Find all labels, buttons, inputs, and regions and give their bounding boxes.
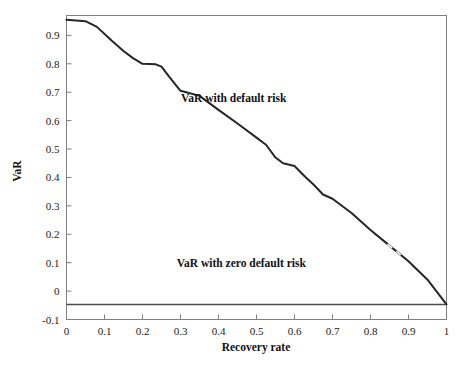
x-tick-label: 0.8 bbox=[364, 325, 378, 337]
y-tick-label: -0.1 bbox=[42, 314, 59, 326]
y-tick-label: 0.9 bbox=[46, 29, 60, 41]
y-tick-label: 0.6 bbox=[46, 115, 60, 127]
x-tick-label: 0.6 bbox=[288, 325, 302, 337]
y-tick-label: 0 bbox=[54, 285, 60, 297]
annotation-var-with-default-risk: VaR with default risk bbox=[181, 92, 287, 104]
x-axis-title: Recovery rate bbox=[222, 341, 291, 354]
x-tick-label: 0.1 bbox=[98, 325, 112, 337]
x-tick-label: 0 bbox=[64, 325, 70, 337]
x-tick-label: 1 bbox=[444, 325, 450, 337]
x-tick-label: 0.5 bbox=[250, 325, 264, 337]
y-tick-label: 0.3 bbox=[46, 200, 60, 212]
figure-background bbox=[0, 0, 471, 367]
annotation-var-with-zero-default-risk: VaR with zero default risk bbox=[177, 257, 307, 269]
y-tick-label: 0.1 bbox=[46, 257, 60, 269]
y-axis-title: VaR bbox=[11, 160, 23, 182]
var-recovery-rate-plot: 00.10.20.30.40.50.60.70.80.91 -0.100.10.… bbox=[0, 0, 471, 367]
x-tick-label: 0.9 bbox=[402, 325, 416, 337]
y-tick-label: 0.4 bbox=[46, 171, 60, 183]
y-tick-label: 0.7 bbox=[46, 86, 60, 98]
x-tick-label: 0.4 bbox=[212, 325, 226, 337]
x-tick-label: 0.7 bbox=[326, 325, 340, 337]
x-tick-label: 0.2 bbox=[136, 325, 150, 337]
y-tick-label: 0.5 bbox=[46, 143, 60, 155]
chart-figure: 00.10.20.30.40.50.60.70.80.91 -0.100.10.… bbox=[0, 0, 471, 367]
x-tick-label: 0.3 bbox=[174, 325, 188, 337]
y-tick-label: 0.2 bbox=[46, 228, 60, 240]
y-tick-label: 0.8 bbox=[46, 58, 60, 70]
